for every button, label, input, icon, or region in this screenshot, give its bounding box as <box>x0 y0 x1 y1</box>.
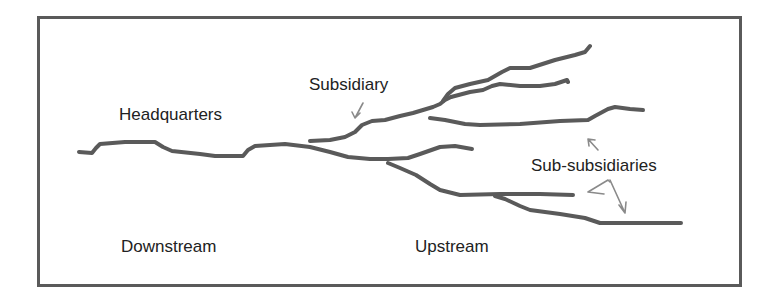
subsidiary-label: Subsidiary <box>309 76 388 93</box>
sub-subsidiary-arrow-down-icon <box>610 180 626 213</box>
upstream-label: Upstream <box>415 238 489 255</box>
subsidiary-arrow-icon <box>352 103 363 118</box>
sub-subsidiary-arrow-left-icon <box>588 180 610 194</box>
main-river <box>79 142 388 159</box>
downstream-label: Downstream <box>121 238 216 255</box>
river-network <box>0 0 776 298</box>
sub-subsidiaries-label: Sub-subsidiaries <box>531 157 657 174</box>
sub-branch-c <box>430 107 643 125</box>
sub-subsidiary-arrow-up-icon <box>588 139 598 150</box>
headquarters-label: Headquarters <box>119 106 222 123</box>
lower-branch <box>388 146 472 159</box>
far-lower-branch <box>495 196 681 223</box>
